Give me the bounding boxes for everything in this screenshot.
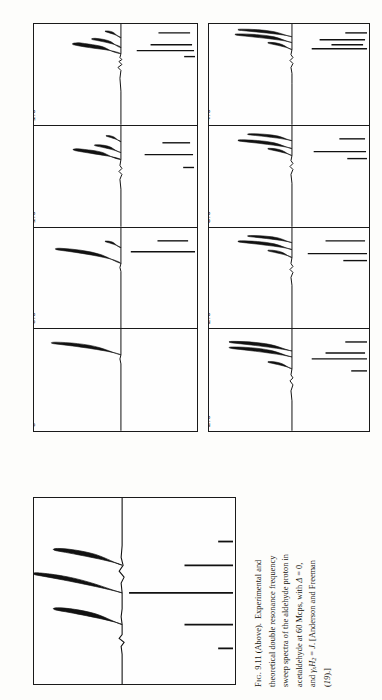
spectrum-trace <box>34 126 197 227</box>
spectra-grid-right: 4.0 3.0 <box>208 23 370 432</box>
spectrum-trace <box>34 498 235 684</box>
spectrum-trace <box>209 329 369 431</box>
spectrum-panel[interactable]: 3.0 <box>209 126 369 228</box>
spectrum-panel[interactable]: 2.0 <box>209 329 369 431</box>
panel-label: 3.0 <box>209 210 212 222</box>
caption-line: theoretical double resonance frequency <box>266 487 280 687</box>
spectrum-trace <box>209 24 369 125</box>
spectrum-trace <box>209 228 369 329</box>
spectrum-trace <box>34 329 197 431</box>
spectrum-panel[interactable]: 1.5 <box>34 24 197 126</box>
panel-label: 4.0 <box>209 109 212 121</box>
panel-label: 1.0 <box>34 210 37 222</box>
caption-line: (19).] <box>321 487 335 687</box>
panel-label: 2.0 <box>209 415 212 427</box>
caption-line: FIG. 9.11 (Above). Experimental and <box>252 487 266 687</box>
spectrum-panel[interactable]: 2.5 <box>209 228 369 330</box>
caption-line: and γxH2 = J. [Anderson and Freeman <box>306 487 320 687</box>
spectrum-trace <box>34 24 197 125</box>
spectrum-trace <box>209 126 369 227</box>
spectrum-panel[interactable]: 4.0 <box>209 24 369 126</box>
panel-label: 2.5 <box>209 312 212 324</box>
spectrum-panel-enlarged[interactable] <box>33 497 236 685</box>
spectrum-panel[interactable]: 0 <box>34 329 197 431</box>
spectrum-panel[interactable]: 0.5 <box>34 228 197 330</box>
panel-label: 1.5 <box>34 109 37 121</box>
caption-line: sweep spectra of the aldehyde proton in <box>279 487 293 687</box>
spectrum-panel[interactable]: 1.0 <box>34 126 197 228</box>
panel-label: 0 <box>34 422 37 427</box>
figure-caption: FIG. 9.11 (Above). Experimental and theo… <box>252 487 338 687</box>
panel-label: 0.5 <box>34 312 37 324</box>
caption-line: acetaldehyde at 60 Mcps, with Δ = 0, <box>293 487 307 687</box>
figure-page: 1.5 1.0 <box>0 0 382 700</box>
spectrum-trace <box>34 228 197 329</box>
spectra-grid-left: 1.5 1.0 <box>33 23 198 432</box>
